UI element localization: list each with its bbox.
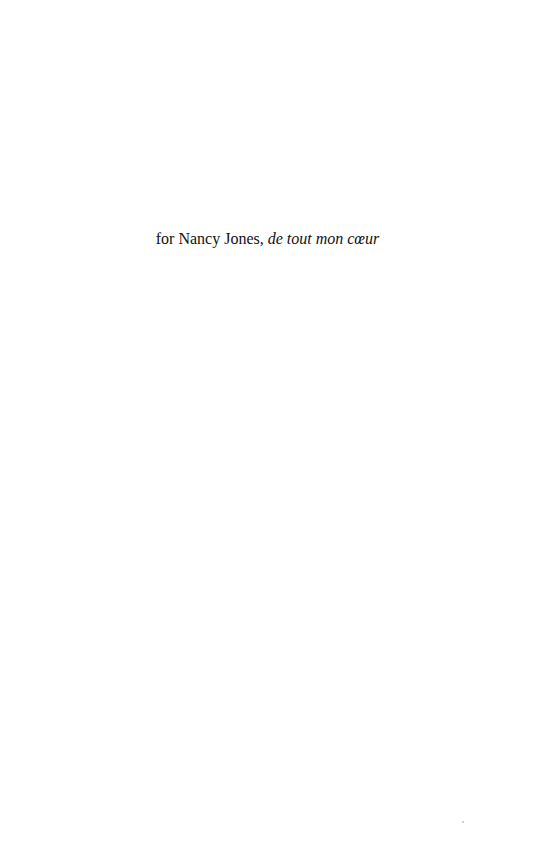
dedication-text: for Nancy Jones, — [156, 230, 268, 247]
book-page: for Nancy Jones, de tout mon cœur — [0, 0, 535, 864]
dedication-italic-phrase: de tout mon cœur — [268, 230, 380, 247]
dedication-line: for Nancy Jones, de tout mon cœur — [0, 229, 535, 249]
scan-speck — [462, 821, 464, 823]
